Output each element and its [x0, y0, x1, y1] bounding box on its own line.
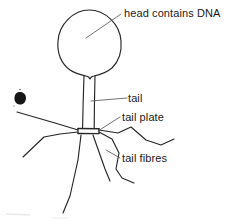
label-head-contains-dna: head contains DNA — [124, 8, 220, 19]
bacteriophage-diagram: head contains DNA tail tail plate tail f… — [0, 0, 226, 224]
paper-smudge — [6, 214, 68, 218]
label-tail: tail — [128, 93, 142, 104]
ink-blot-smudge — [13, 89, 26, 107]
leader-line-tail — [91, 98, 127, 101]
diagram-canvas — [0, 0, 226, 224]
phage-tail-plate — [78, 129, 99, 134]
label-tail-fibres: tail fibres — [122, 153, 167, 164]
phage-tail — [83, 76, 95, 128]
label-tail-plate: tail plate — [122, 112, 164, 123]
leader-line-tail-plate — [98, 117, 120, 131]
